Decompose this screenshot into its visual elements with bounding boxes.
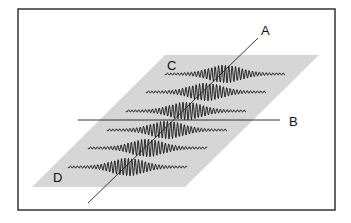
label-d: D — [53, 170, 62, 185]
label-c: C — [167, 58, 176, 73]
label-b: B — [289, 114, 298, 129]
diagram-figure: A B C D — [0, 0, 351, 223]
label-a: A — [261, 23, 270, 38]
